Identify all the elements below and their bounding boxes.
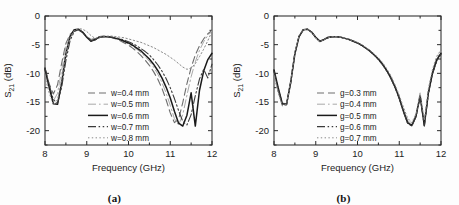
x-tick-label: 11 — [394, 148, 404, 159]
x-axis-label: Frequency (GHz) — [321, 162, 394, 173]
x-tick-label: 9 — [84, 148, 89, 159]
legend-label: g=0.4 mm — [340, 100, 377, 109]
legend-label: w=0.5 mm — [110, 100, 149, 109]
legend-label: g=0.5 mm — [340, 112, 377, 121]
plot-a-canvas: 891011120-5-10-15-20Frequency (GHz)S21 (… — [0, 0, 229, 188]
panel-b: 891011120-5-10-15-20Frequency (GHz)S21 (… — [229, 0, 458, 205]
y-tick-label: -10 — [255, 68, 269, 79]
legend-label: w=0.8 mm — [110, 134, 149, 143]
legend-label: g=0.3 mm — [340, 89, 377, 98]
svg-text:S21 (dB): S21 (dB) — [231, 63, 244, 98]
figure-s21-parameter-sweeps: 891011120-5-10-15-20Frequency (GHz)S21 (… — [0, 0, 459, 205]
y-tick-label: -20 — [255, 125, 269, 136]
x-tick-label: 12 — [207, 148, 218, 159]
panel-a: 891011120-5-10-15-20Frequency (GHz)S21 (… — [0, 0, 229, 205]
y-tick-label: -15 — [255, 96, 269, 107]
panel-a-caption: (a) — [0, 192, 229, 204]
y-tick-label: -5 — [32, 39, 40, 50]
legend-label: g=0.6 mm — [340, 123, 377, 132]
legend-label: g=0.7 mm — [340, 134, 377, 143]
legend-label: w=0.4 mm — [110, 89, 149, 98]
y-tick-label: 0 — [35, 10, 40, 21]
x-tick-label: 8 — [42, 148, 47, 159]
x-tick-label: 9 — [313, 148, 318, 159]
legend-label: w=0.7 mm — [110, 123, 149, 132]
panel-b-caption: (b) — [229, 192, 458, 204]
x-tick-label: 12 — [436, 148, 447, 159]
plot-b-canvas: 891011120-5-10-15-20Frequency (GHz)S21 (… — [229, 0, 458, 188]
x-tick-label: 10 — [123, 148, 134, 159]
x-tick-label: 11 — [165, 148, 175, 159]
x-tick-label: 10 — [352, 148, 363, 159]
svg-text:S21 (dB): S21 (dB) — [2, 63, 15, 98]
y-tick-label: -15 — [26, 96, 40, 107]
x-tick-label: 8 — [271, 148, 276, 159]
y-tick-label: -5 — [261, 39, 269, 50]
y-axis-label: S21 (dB) — [231, 63, 244, 98]
y-tick-label: -20 — [26, 125, 40, 136]
y-axis-label: S21 (dB) — [2, 63, 15, 98]
y-tick-label: 0 — [264, 10, 269, 21]
legend-label: w=0.6 mm — [110, 112, 149, 121]
x-axis-label: Frequency (GHz) — [92, 162, 165, 173]
y-tick-label: -10 — [26, 68, 40, 79]
